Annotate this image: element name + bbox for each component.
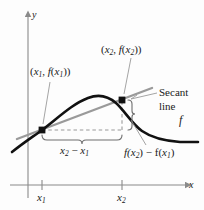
x-tick-label-x2-sub: 2 <box>122 196 126 205</box>
x-axis-label: x <box>189 180 193 190</box>
rise-f-open-1: f( <box>124 146 131 158</box>
secant-label-line-2: line <box>159 101 176 112</box>
run-annotation-label: x2 − x1 <box>60 145 89 158</box>
point-1-label: (x1, f(x1)) <box>30 66 70 79</box>
leader-point-2 <box>124 58 131 94</box>
curve-label-f: f <box>179 114 182 126</box>
secant-line-figure: y x x1 x2 (x1, f(x1)) (x2, f(x2)) Secant… <box>0 0 204 210</box>
secant-line <box>17 88 152 139</box>
secant-label-line-1: Secant <box>159 87 188 98</box>
x-tick-label-x1-sub: 1 <box>42 196 46 205</box>
run-brace <box>42 135 122 144</box>
point-marker-1 <box>39 127 46 134</box>
rise-mid: ) − f( <box>139 146 162 158</box>
run-x1-sub: 1 <box>85 149 89 158</box>
leader-point-1 <box>43 82 50 124</box>
point-2-label: (x2, f(x2)) <box>101 44 141 57</box>
point-2-close-paren: )) <box>134 43 141 55</box>
rise-annotation-label: f(x2) − f(x1) <box>124 147 174 160</box>
run-minus: − <box>69 144 81 156</box>
x-tick-label-x1: x1 <box>37 192 46 205</box>
rise-close-paren: ) <box>171 146 175 158</box>
point-1-close-paren: )) <box>63 65 70 77</box>
y-axis-label: y <box>32 10 36 20</box>
x-tick-label-x2: x2 <box>117 192 126 205</box>
point-marker-2 <box>119 97 126 104</box>
